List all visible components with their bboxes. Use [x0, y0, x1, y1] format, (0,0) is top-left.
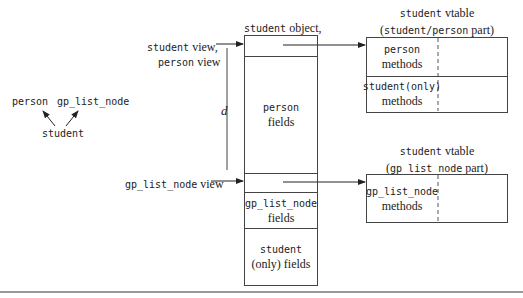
- vtable2-row1-mono: gp_list_node: [366, 184, 438, 199]
- person-fields-serif: fields: [268, 115, 295, 130]
- gp-view-mono: gp_list_node: [125, 179, 197, 190]
- vtable1-person-methods: person methods: [367, 38, 437, 76]
- vtable2-box: gp_list_node methods: [366, 174, 508, 223]
- offset-d-label: d: [221, 103, 228, 119]
- vtable2-title: student vtable (gp_list_node part): [366, 142, 508, 176]
- vtable1-title-mono: student: [400, 8, 442, 19]
- vtable1-row2-serif: methods: [382, 94, 423, 109]
- vtable2-subtitle-mono: gp_list_node: [390, 163, 462, 174]
- object-title-mono: student: [244, 23, 286, 34]
- vtable2-title-serif: vtable: [442, 144, 474, 158]
- vtable2-gp-list-node-methods: gp_list_node methods: [367, 175, 437, 222]
- vtable1-box: person methods student(only) methods: [366, 37, 508, 113]
- person-view-label: person view: [158, 52, 220, 70]
- class-person: person: [12, 96, 48, 107]
- vtable2-title-mono: student: [400, 146, 442, 157]
- inherit-arrow-gp-list-node: [66, 111, 78, 126]
- class-student: student: [42, 128, 84, 139]
- gp-view-serif: view: [197, 177, 223, 191]
- person-view-serif: view: [194, 55, 220, 69]
- vtable1-row1-serif: methods: [382, 57, 423, 72]
- vtable1-subtitle-mono: student/person: [384, 25, 468, 36]
- student-fields-mono: student: [260, 242, 302, 257]
- object-student-fields: student (only) fields: [245, 228, 317, 285]
- vtable1-student-methods: student(only) methods: [367, 76, 437, 112]
- student-object-box: person fields gp_list_node fields studen…: [244, 35, 318, 286]
- object-title: student object,: [244, 18, 321, 36]
- object-title-serif: object,: [286, 21, 321, 35]
- vtable1-row1-mono: person: [384, 42, 420, 57]
- gp-fields-serif: fields: [268, 211, 295, 226]
- object-vptr-cell-1: [245, 36, 317, 56]
- student-fields-serif: (only) fields: [252, 257, 311, 272]
- vtable1-subtitle-serif: part): [468, 23, 494, 37]
- inherit-arrow-person: [43, 111, 55, 126]
- vtable1-title-serif: vtable: [442, 6, 474, 20]
- vtable2-row1-serif: methods: [382, 199, 423, 214]
- vtable1-title: student vtable (student/person part): [366, 4, 508, 38]
- gp-list-node-view-label: gp_list_node view: [125, 174, 224, 192]
- vtable1-row2-mono: student(only): [363, 79, 441, 94]
- object-vptr-cell-2: [245, 173, 317, 192]
- object-person-fields: person fields: [245, 56, 317, 173]
- object-gp-list-node-fields: gp_list_node fields: [245, 192, 317, 228]
- gp-fields-mono: gp_list_node: [245, 196, 317, 211]
- vtable2-subtitle-serif: part): [462, 161, 488, 175]
- class-gp-list-node: gp_list_node: [57, 96, 129, 107]
- person-fields-mono: person: [263, 100, 299, 115]
- person-view-mono: person: [158, 57, 194, 68]
